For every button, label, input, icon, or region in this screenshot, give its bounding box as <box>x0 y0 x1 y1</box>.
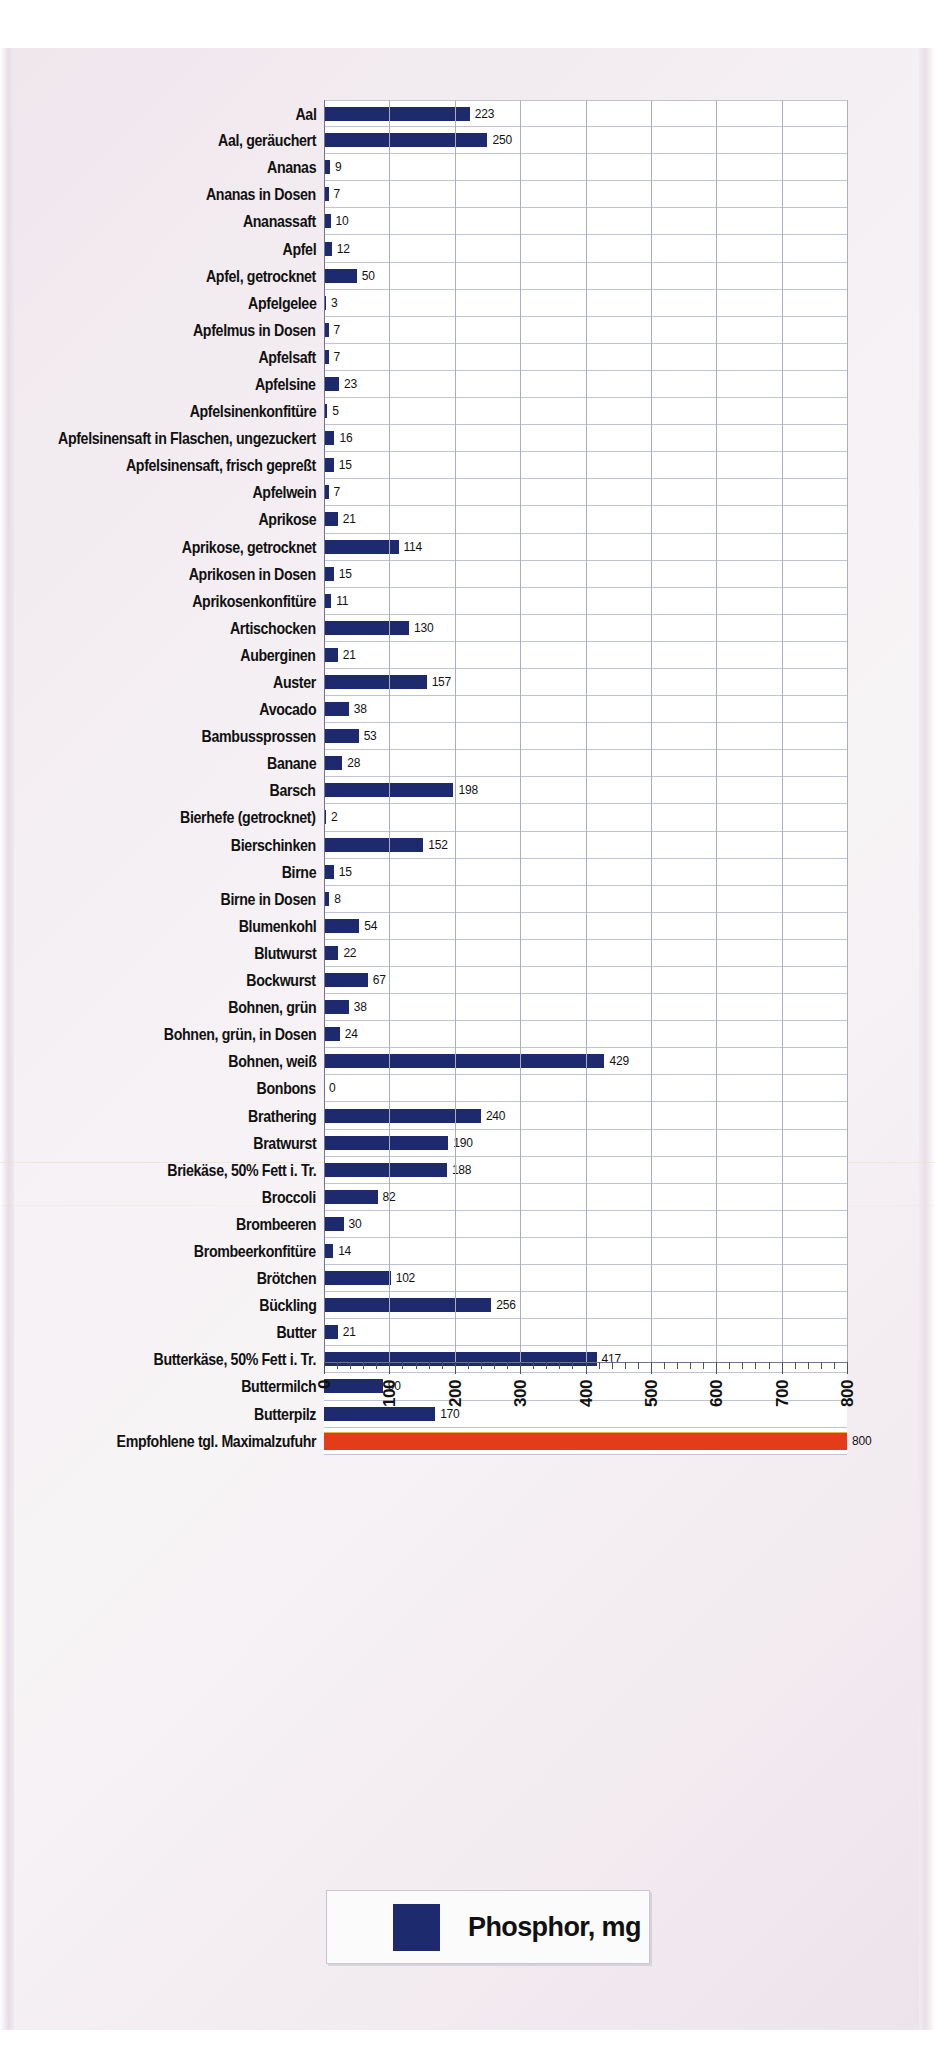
x-axis-major-tick <box>586 1362 587 1374</box>
bar-row: Aal223 <box>324 100 847 127</box>
category-label: Aal <box>292 104 316 123</box>
x-axis-tick-label: 300 <box>511 1380 531 1407</box>
x-axis-minor-tick <box>533 1362 534 1369</box>
bar-row: Ananassaft10 <box>324 208 847 235</box>
x-axis-minor-tick <box>677 1362 678 1369</box>
bar <box>324 621 409 635</box>
x-axis-tick-label: 200 <box>446 1380 466 1407</box>
bar-row: Aprikose21 <box>324 506 847 533</box>
bar-row: Ananas in Dosen7 <box>324 181 847 208</box>
bar-row: Aprikosenkonfitüre11 <box>324 588 847 615</box>
bar-row: Bohnen, grün, in Dosen24 <box>324 1021 847 1048</box>
bar <box>324 810 326 824</box>
bar-value-label: 54 <box>364 919 377 933</box>
legend: Phosphor, mg <box>326 1890 650 1964</box>
bar-value-label: 223 <box>475 107 494 121</box>
bar <box>324 838 423 852</box>
bar-row: Brombeeren30 <box>324 1211 847 1238</box>
x-axis-tick-label: 500 <box>642 1380 662 1407</box>
bar <box>324 756 342 770</box>
x-axis-minor-tick <box>363 1362 364 1369</box>
bar-value-label: 0 <box>329 1081 335 1095</box>
bar-row: Apfelmus in Dosen7 <box>324 317 847 344</box>
legend-color-swatch <box>393 1904 440 1951</box>
bar-row: Butter21 <box>324 1319 847 1346</box>
bar-value-label: 28 <box>347 756 360 770</box>
bar <box>324 973 368 987</box>
x-axis-minor-tick <box>468 1362 469 1369</box>
bar <box>324 946 338 960</box>
legend-label: Phosphor, mg <box>468 1912 641 1943</box>
x-axis-minor-tick <box>755 1362 756 1369</box>
bar-row: Blutwurst22 <box>324 940 847 967</box>
category-label: Birne <box>276 862 316 881</box>
category-label: Apfelsinenkonfitüre <box>169 402 316 421</box>
bar-value-label: 7 <box>334 323 340 337</box>
bar-value-label: 53 <box>364 729 377 743</box>
category-label: Apfelwein <box>242 483 316 502</box>
bar-value-label: 38 <box>354 702 367 716</box>
bar-value-label: 5 <box>332 404 338 418</box>
category-label: Apfelsaft <box>249 347 316 366</box>
x-axis-tick-label: 600 <box>707 1380 727 1407</box>
bar-value-label: 240 <box>486 1109 505 1123</box>
bar-value-label: 21 <box>343 512 356 526</box>
bar-row: Brombeerkonfitüre14 <box>324 1238 847 1265</box>
bar-value-label: 23 <box>344 377 357 391</box>
bar-row: Bierhefe (getrocknet)2 <box>324 804 847 831</box>
category-label: Brombeeren <box>223 1214 316 1233</box>
bar-row: Bohnen, weiß429 <box>324 1048 847 1075</box>
bar-row: Briekäse, 50% Fett i. Tr.188 <box>324 1157 847 1184</box>
bar <box>324 892 329 906</box>
category-label: Barsch <box>262 781 316 800</box>
bar <box>324 702 349 716</box>
gridline <box>847 100 848 1362</box>
category-label: Aprikose, getrocknet <box>160 537 316 556</box>
x-axis-minor-tick <box>821 1362 822 1369</box>
bar-value-label: 12 <box>337 242 350 256</box>
bar <box>324 1244 333 1258</box>
bar-row: Brathering240 <box>324 1102 847 1129</box>
bar <box>324 404 327 418</box>
bar-value-label: 21 <box>343 648 356 662</box>
category-label: Ananassaft <box>231 212 316 231</box>
category-label: Butterkäse, 50% Fett i. Tr. <box>127 1350 316 1369</box>
bar-row: Bratwurst190 <box>324 1130 847 1157</box>
x-axis-major-tick <box>847 1362 848 1374</box>
x-axis-minor-tick <box>442 1362 443 1369</box>
bar <box>324 107 470 121</box>
bar-row: Apfelsinensaft, frisch gepreßt15 <box>324 452 847 479</box>
bar-row: Bierschinken152 <box>324 832 847 859</box>
bar-value-label: 800 <box>852 1434 871 1448</box>
category-label: Bohnen, weiß <box>214 1052 316 1071</box>
bar <box>324 458 334 472</box>
plot-area: Aal223Aal, geräuchert250Ananas9Ananas in… <box>324 100 847 1362</box>
bar-value-label: 21 <box>343 1325 356 1339</box>
bar-row: Avocado38 <box>324 696 847 723</box>
bar-row: Bückling256 <box>324 1292 847 1319</box>
bar <box>324 540 399 554</box>
x-axis-minor-tick <box>481 1362 482 1369</box>
category-label: Bockwurst <box>235 971 316 990</box>
x-axis <box>324 1362 847 1378</box>
category-label: Auberginen <box>228 645 316 664</box>
x-axis-minor-tick <box>729 1362 730 1369</box>
bar <box>324 323 329 337</box>
bar-row: Aprikosen in Dosen15 <box>324 561 847 588</box>
bar-value-label: 190 <box>453 1136 472 1150</box>
bar <box>324 485 329 499</box>
bar-value-label: 130 <box>414 621 433 635</box>
bar <box>324 214 331 228</box>
x-axis-tick-labels: 0100200300400500600700800 <box>324 1380 847 1466</box>
bar <box>324 1054 604 1068</box>
bar-row: Aprikose, getrocknet114 <box>324 534 847 561</box>
bar-row: Ananas9 <box>324 154 847 181</box>
bar-row: Birne in Dosen8 <box>324 886 847 913</box>
category-label: Banane <box>259 754 316 773</box>
bar <box>324 783 453 797</box>
category-label: Avocado <box>250 700 316 719</box>
bar <box>324 675 427 689</box>
category-label: Auster <box>266 673 316 692</box>
bar-value-label: 152 <box>428 838 447 852</box>
category-label: Apfel, getrocknet <box>188 266 316 285</box>
